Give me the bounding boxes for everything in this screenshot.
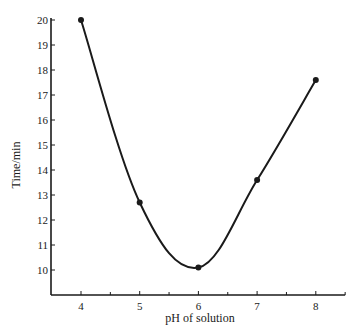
y-tick-label: 16 [37, 114, 49, 126]
data-point-marker [78, 17, 84, 23]
data-line [81, 20, 316, 268]
axes [51, 18, 345, 295]
data-point-marker [313, 77, 319, 83]
x-tick-label: 8 [313, 300, 319, 312]
y-axis-title: Time/min [9, 142, 23, 189]
y-tick-label: 10 [37, 264, 49, 276]
x-axis-ticks: 45678 [78, 291, 345, 312]
x-tick-label: 7 [254, 300, 260, 312]
y-tick-label: 17 [37, 89, 49, 101]
chart: 1011121314151617181920 45678 pH of solut… [0, 0, 356, 329]
x-tick-label: 4 [78, 300, 84, 312]
y-tick-label: 19 [37, 39, 49, 51]
y-tick-label: 12 [37, 214, 48, 226]
data-markers [78, 17, 319, 271]
x-axis-title: pH of solution [165, 311, 234, 325]
data-point-marker [137, 200, 143, 206]
y-tick-label: 14 [37, 164, 49, 176]
line-chart-svg: 1011121314151617181920 45678 pH of solut… [0, 0, 356, 329]
y-tick-label: 13 [37, 189, 49, 201]
y-tick-label: 18 [37, 64, 49, 76]
data-point-marker [254, 177, 260, 183]
x-tick-label: 5 [137, 300, 143, 312]
y-tick-label: 11 [37, 239, 48, 251]
y-tick-label: 15 [37, 139, 49, 151]
data-point-marker [195, 265, 201, 271]
y-axis-ticks: 1011121314151617181920 [37, 14, 55, 276]
y-tick-label: 20 [37, 14, 49, 26]
